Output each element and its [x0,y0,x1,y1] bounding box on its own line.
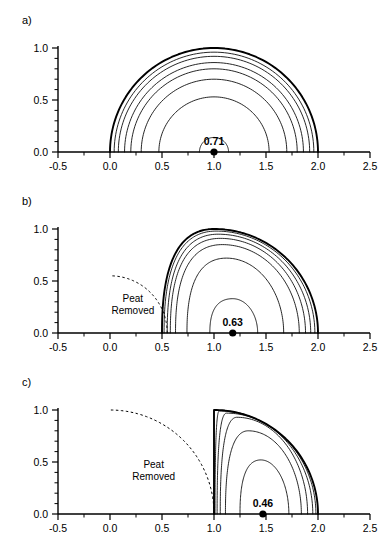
contour-group [110,410,318,514]
x-tick-label: 2.5 [363,341,378,353]
y-tick-label: 0.0 [33,327,48,339]
x-tick-label: 2.0 [311,341,326,353]
x-tick-label: 0.0 [103,341,118,353]
value-marker-label: 0.63 [223,316,244,328]
x-tick-label: 1.5 [259,522,274,534]
panel-b: b) -0.50.00.51.01.52.02.50.00.51.0PeatRe… [0,181,385,362]
axis-group: -0.50.00.51.01.52.02.50.00.51.0 [33,223,377,353]
contour-group [110,229,318,333]
x-tick-label: -0.5 [49,341,67,353]
y-tick-label: 0.0 [33,146,48,158]
y-tick-label: 0.5 [33,94,48,106]
y-tick-label: 1.0 [33,404,48,416]
value-marker-dot [229,329,236,336]
x-tick-label: 2.0 [311,160,326,172]
x-tick-label: 0.0 [103,522,118,534]
value-marker-dot [210,148,217,155]
x-tick-label: 1.5 [259,160,274,172]
panel-b-plot: -0.50.00.51.01.52.02.50.00.51.0PeatRemov… [0,181,385,362]
value-marker-label: 0.46 [253,497,274,509]
value-marker-dot [259,510,266,517]
panel-a: a) -0.50.00.51.01.52.02.50.00.51.00.71 [0,0,385,181]
x-tick-label: -0.5 [49,160,67,172]
panel-a-plot: -0.50.00.51.01.52.02.50.00.51.00.71 [0,0,385,181]
x-tick-label: 0.0 [103,160,118,172]
x-tick-label: 2.0 [311,522,326,534]
y-tick-label: 0.0 [33,508,48,520]
x-tick-label: 0.5 [155,341,170,353]
x-tick-label: 1.0 [207,522,222,534]
peat-removed-line1: Peat [123,293,144,304]
peat-removed-line1: Peat [143,459,164,470]
value-marker-label: 0.71 [204,135,225,147]
y-tick-label: 0.5 [33,456,48,468]
peat-removed-line2: Removed [132,471,175,482]
x-tick-label: 2.5 [363,160,378,172]
x-tick-label: 0.5 [155,522,170,534]
axis-group: -0.50.00.51.01.52.02.50.00.51.0 [33,42,377,172]
panel-c: c) -0.50.00.51.01.52.02.50.00.51.0PeatRe… [0,362,385,542]
peat-removed-line2: Removed [111,305,154,316]
x-tick-label: 1.0 [207,160,222,172]
panel-c-plot: -0.50.00.51.01.52.02.50.00.51.0PeatRemov… [0,362,385,542]
y-tick-label: 1.0 [33,223,48,235]
y-tick-label: 1.0 [33,42,48,54]
y-tick-label: 0.5 [33,275,48,287]
x-tick-label: 2.5 [363,522,378,534]
x-tick-label: 1.0 [207,341,222,353]
axis-group: -0.50.00.51.01.52.02.50.00.51.0 [33,404,377,534]
x-tick-label: 0.5 [155,160,170,172]
x-tick-label: 1.5 [259,341,274,353]
x-tick-label: -0.5 [49,522,67,534]
